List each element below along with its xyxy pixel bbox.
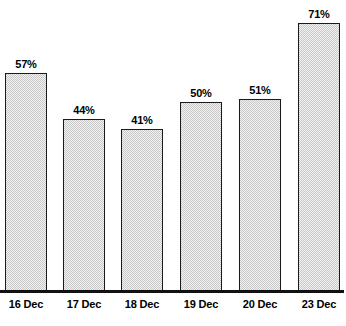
bar[interactable]	[5, 73, 47, 292]
x-axis-tick-label: 23 Dec	[298, 297, 340, 311]
bar-value-label: 57%	[5, 58, 47, 70]
bar-value-label: 50%	[180, 87, 222, 99]
x-axis-tick-label: 20 Dec	[239, 297, 281, 311]
bar-group: 51%	[239, 0, 281, 292]
bar-value-label: 71%	[298, 8, 340, 20]
bar-group: 41%	[121, 0, 163, 292]
bar-group: 57%	[5, 0, 47, 292]
bar-group: 50%	[180, 0, 222, 292]
bar-value-label: 44%	[63, 104, 105, 116]
bar[interactable]	[63, 119, 105, 292]
x-axis-tick-label: 16 Dec	[5, 297, 47, 311]
bar-group: 44%	[63, 0, 105, 292]
x-axis-line	[0, 290, 344, 293]
plot-area: 57% 44% 41% 50% 51% 71%	[0, 0, 346, 292]
bar-value-label: 41%	[121, 114, 163, 126]
bar[interactable]	[121, 129, 163, 292]
x-axis-tick-label: 18 Dec	[121, 297, 163, 311]
bar[interactable]	[239, 99, 281, 292]
x-axis-tick-label: 17 Dec	[63, 297, 105, 311]
x-axis-tick-label: 19 Dec	[180, 297, 222, 311]
bar[interactable]	[180, 102, 222, 292]
bar-chart: 57% 44% 41% 50% 51% 71%	[0, 0, 346, 326]
bar[interactable]	[298, 23, 340, 292]
x-axis-tick-labels: 16 Dec 17 Dec 18 Dec 19 Dec 20 Dec 23 De…	[0, 297, 346, 317]
bar-group: 71%	[298, 0, 340, 292]
bar-value-label: 51%	[239, 84, 281, 96]
